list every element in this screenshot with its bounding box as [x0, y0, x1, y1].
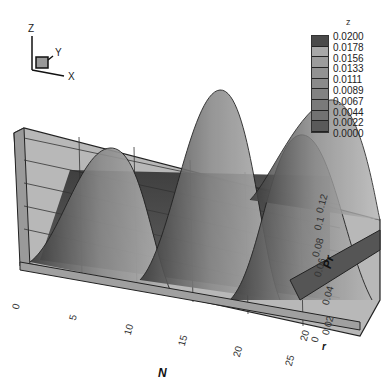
colorbar	[311, 35, 329, 133]
colorbar-level: 0.0178	[333, 43, 364, 54]
colorbar-labels: 0.0200 0.0178 0.0156 0.0133 0.0111 0.008…	[333, 32, 364, 140]
colorbar-level: 0.0000	[333, 129, 364, 140]
r-axis-title: r	[322, 341, 326, 352]
svg-text:Z: Z	[28, 23, 34, 34]
colorbar-level: 0.0067	[333, 97, 364, 108]
colorbar-title: z	[346, 17, 351, 27]
svg-text:Y: Y	[55, 47, 62, 58]
n-axis-title: N	[158, 366, 167, 380]
svg-text:X: X	[68, 71, 75, 82]
